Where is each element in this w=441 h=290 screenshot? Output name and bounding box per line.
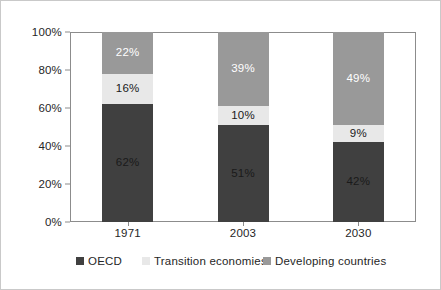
y-tick-label: 80% <box>38 64 62 76</box>
legend-label: Transition economies <box>154 255 267 267</box>
chart-legend: OECDTransition economiesDeveloping count… <box>21 253 421 271</box>
bar-stack: 22%16%62% <box>102 32 153 222</box>
bar-segment[interactable]: 39% <box>218 32 269 106</box>
x-axis-labels: 197120032030 <box>70 227 416 245</box>
y-tick-label: 40% <box>38 140 62 152</box>
bar-stack: 49%9%42% <box>333 32 384 222</box>
bar-segment[interactable]: 62% <box>102 104 153 222</box>
bar-group[interactable]: 49%9%42% <box>333 32 384 222</box>
x-tick-mark <box>358 222 359 226</box>
legend-swatch-icon <box>142 257 150 265</box>
legend-swatch-icon <box>76 257 84 265</box>
legend-item[interactable]: Developing countries <box>263 253 386 269</box>
x-tick-mark <box>128 222 129 226</box>
x-tick-label: 2030 <box>345 227 371 239</box>
y-tick-label: 0% <box>45 216 62 228</box>
bar-group[interactable]: 22%16%62% <box>102 32 153 222</box>
legend-item[interactable]: Transition economies <box>142 253 267 269</box>
y-tick-label: 60% <box>38 102 62 114</box>
y-tick-label: 20% <box>38 178 62 190</box>
bar-group[interactable]: 39%10%51% <box>218 32 269 222</box>
legend-label: Developing countries <box>275 255 386 267</box>
chart-figure: 100%80%60%40%20%0% 22%16%62%39%10%51%49%… <box>0 0 441 290</box>
legend-swatch-icon <box>263 257 271 265</box>
bar-stack: 39%10%51% <box>218 32 269 222</box>
bar-segment-label: 39% <box>231 63 255 75</box>
x-tick-label: 2003 <box>230 227 256 239</box>
bar-segment-label: 16% <box>116 83 140 95</box>
bars-layer: 22%16%62%39%10%51%49%9%42% <box>70 32 416 222</box>
bar-segment[interactable]: 9% <box>333 125 384 142</box>
bar-segment-label: 22% <box>116 47 140 59</box>
bar-segment[interactable]: 16% <box>102 74 153 104</box>
bar-segment-label: 51% <box>231 168 255 180</box>
bar-segment-label: 49% <box>347 73 371 85</box>
bar-segment-label: 62% <box>116 157 140 169</box>
bar-segment[interactable]: 49% <box>333 32 384 125</box>
bar-segment-label: 10% <box>231 110 255 122</box>
bar-segment[interactable]: 22% <box>102 32 153 74</box>
bar-segment[interactable]: 51% <box>218 125 269 222</box>
legend-label: OECD <box>88 255 122 267</box>
y-axis-labels: 100%80%60%40%20%0% <box>1 32 62 222</box>
bar-segment-label: 9% <box>350 128 367 140</box>
legend-item[interactable]: OECD <box>76 253 122 269</box>
x-tick-mark <box>243 222 244 226</box>
x-tick-label: 1971 <box>114 227 140 239</box>
bar-segment-label: 42% <box>347 176 371 188</box>
bar-segment[interactable]: 10% <box>218 106 269 125</box>
y-tick-label: 100% <box>32 26 62 38</box>
bar-segment[interactable]: 42% <box>333 142 384 222</box>
